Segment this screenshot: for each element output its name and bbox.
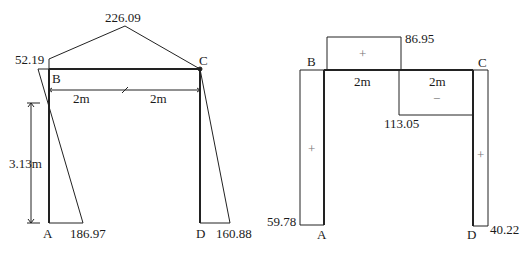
shear-span-right-label: 2m: [429, 75, 446, 89]
shear-negative-value: 113.05: [384, 117, 419, 131]
moment-a-value: 186.97: [70, 227, 106, 241]
node-a-label-left: A: [43, 227, 52, 241]
span-left-label: 2m: [73, 92, 90, 106]
diagram-canvas: [0, 0, 529, 254]
moment-b-value: 52.19: [15, 53, 44, 67]
node-c-label-right: C: [478, 56, 487, 70]
beam-moment-curve: [49, 26, 200, 69]
sign-beam-positive: +: [359, 47, 366, 60]
node-c-label-left: C: [199, 54, 208, 68]
shear-positive-value: 86.95: [405, 32, 434, 46]
moment-d-value: 160.88: [216, 227, 252, 241]
column-d-moment: [200, 69, 230, 223]
sign-column-right: +: [477, 148, 484, 161]
node-d-label-right: D: [467, 228, 476, 242]
column-height-label: 3.13m: [9, 157, 42, 171]
node-a-label-right: A: [317, 228, 326, 242]
node-d-label-left: D: [196, 227, 205, 241]
node-b-label-right: B: [307, 55, 316, 69]
sign-column-left: +: [308, 142, 315, 155]
span-right-label: 2m: [150, 92, 167, 106]
moment-peak-value: 226.09: [105, 11, 141, 25]
shear-span-left-label: 2m: [354, 75, 371, 89]
shear-d-value: 40.22: [490, 223, 519, 237]
shear-a-value: 59.78: [267, 215, 296, 229]
sign-beam-negative: −: [433, 92, 440, 105]
node-b-label-left: B: [52, 72, 61, 86]
